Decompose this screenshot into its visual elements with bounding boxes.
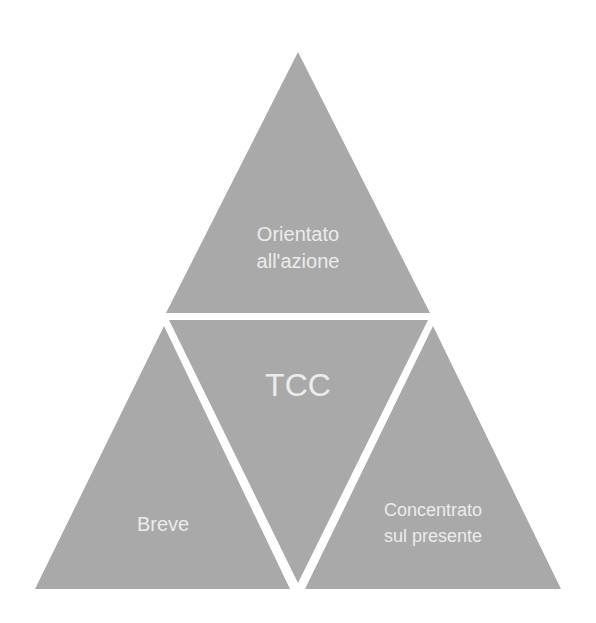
top-label-line2: all'azione xyxy=(257,250,340,272)
segment-top: Orientato all'azione xyxy=(166,52,430,313)
right-label-line1: Concentrato xyxy=(384,500,482,520)
top-triangle xyxy=(166,52,430,313)
top-label-line1: Orientato xyxy=(257,223,339,245)
right-label-line2: sul presente xyxy=(384,526,482,546)
left-label: Breve xyxy=(137,513,189,535)
center-label: TCC xyxy=(265,367,331,403)
tcc-triangle-diagram: Orientato all'azione TCC Breve Concentra… xyxy=(0,0,596,623)
